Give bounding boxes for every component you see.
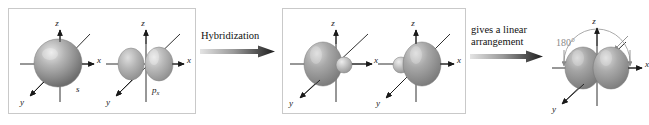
sp-orbital-left-group: z x y	[286, 14, 380, 108]
bond-angle-label: 180°	[556, 37, 575, 48]
linear-arrangement-arrow-label-line2: arrangement	[470, 36, 546, 48]
x-axis-label: x	[96, 55, 101, 65]
sp-pair-left-highlight	[572, 50, 584, 66]
linear-arrangement-panel: z x y 180°	[550, 10, 649, 120]
figure-canvas: z x y s	[0, 0, 649, 125]
y-axis-tip	[300, 80, 320, 98]
hybridization-arrow-group: Hybridization	[200, 30, 278, 59]
y-axis-tip	[386, 80, 404, 98]
s-orbital-svg: z x y s	[14, 14, 106, 108]
z-axis-label: z	[140, 18, 145, 28]
px-left-lobe	[118, 48, 144, 80]
y-axis-label: y	[375, 98, 380, 108]
s-orbital-sphere	[34, 39, 82, 87]
hybridization-arrow-label: Hybridization	[200, 30, 278, 42]
sp-orbital-right-group: z x y	[376, 14, 468, 108]
x-axis-label: x	[186, 55, 191, 65]
sp-left-minor-lobe	[336, 57, 352, 73]
px-orbital-svg: z x y px	[104, 14, 196, 108]
sp-pair-linear-svg: z x y 180°	[550, 10, 649, 120]
sp-right-major-lobe	[403, 42, 441, 86]
x-axis-label: x	[456, 55, 461, 65]
y-axis-tip	[116, 80, 132, 96]
px-orbital-label: px	[151, 85, 160, 96]
z-axis-label: z	[330, 18, 335, 28]
sp-orbital-left-svg: z x y	[286, 14, 380, 108]
y-axis-label: y	[19, 97, 24, 107]
linear-arrangement-arrow-label-line1: gives a linear	[470, 24, 546, 36]
sp-pair-right-highlight	[600, 50, 612, 66]
z-axis-label: z	[591, 16, 596, 26]
s-orbital-label: s	[76, 84, 80, 94]
s-orbital-highlight	[42, 48, 58, 60]
y-axis-tip	[30, 82, 44, 96]
z-axis-label: z	[54, 18, 59, 28]
y-axis-label: y	[105, 97, 110, 107]
sp-pair-right-lobe	[593, 47, 629, 89]
z-axis-label: z	[410, 18, 415, 28]
linear-arrangement-arrow-icon	[470, 50, 544, 64]
hybridization-arrow-icon	[200, 45, 276, 59]
sp-orbital-right-svg: z x y	[376, 14, 468, 108]
linear-arrangement-arrow-group: gives a linear arrangement	[470, 24, 546, 64]
sp-left-highlight	[310, 46, 322, 64]
y-axis-tip	[562, 84, 584, 104]
x-axis-label: x	[644, 59, 649, 69]
y-axis-label: y	[288, 98, 293, 108]
sp-right-highlight	[410, 46, 422, 64]
px-highlight	[149, 49, 159, 65]
y-axis-label: y	[551, 104, 556, 114]
s-orbital-group: z x y s	[14, 14, 106, 108]
px-orbital-group: z x y px	[104, 14, 196, 108]
px-right-lobe	[145, 47, 173, 81]
